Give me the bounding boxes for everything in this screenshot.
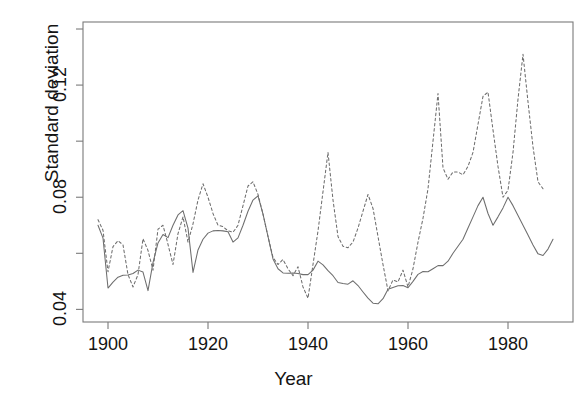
x-tick-label: 1900 — [68, 334, 148, 355]
x-axis-ticks — [108, 322, 508, 329]
data-series-group — [98, 54, 553, 304]
series-line-solid — [98, 196, 553, 304]
y-tick-label: 0.08 — [50, 167, 71, 227]
x-tick-label: 1920 — [168, 334, 248, 355]
y-axis-ticks — [76, 29, 83, 309]
x-tick-label: 1960 — [368, 334, 448, 355]
plot-frame — [83, 22, 573, 322]
y-tick-label: 0.12 — [50, 55, 71, 115]
x-axis-title: Year — [0, 368, 587, 390]
plot-border — [83, 22, 573, 322]
x-tick-label: 1940 — [268, 334, 348, 355]
series-line-dashed — [98, 54, 543, 298]
y-tick-label: 0.04 — [50, 279, 71, 339]
x-tick-label: 1980 — [468, 334, 548, 355]
figure-canvas: Standard deviation Year 0.040.080.12 190… — [0, 0, 587, 404]
